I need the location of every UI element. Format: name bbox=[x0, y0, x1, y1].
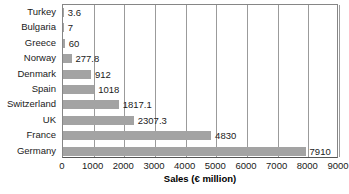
category-label: UK bbox=[43, 112, 56, 127]
bar[interactable] bbox=[63, 39, 65, 48]
x-tick-label: 3000 bbox=[143, 159, 164, 172]
bar-value-label: 4830 bbox=[215, 128, 236, 143]
bar-value-label: 912 bbox=[95, 67, 111, 82]
category-label: Norway bbox=[24, 50, 56, 65]
x-tick-label: 5000 bbox=[205, 159, 226, 172]
category-label: Spain bbox=[32, 81, 56, 96]
bar[interactable] bbox=[63, 70, 91, 79]
x-tick-label: 0 bbox=[59, 159, 64, 172]
bar-value-label: 1817.1 bbox=[123, 97, 152, 112]
category-label: Turkey bbox=[27, 4, 56, 19]
x-tick-label: 1000 bbox=[82, 159, 103, 172]
x-tick-label: 2000 bbox=[113, 159, 134, 172]
x-axis-ticks: 0100020003000400050006000700080009000 bbox=[62, 159, 338, 172]
bar-row: 3.6 bbox=[63, 5, 337, 20]
category-label: Germany bbox=[17, 143, 56, 158]
bar-value-label: 3.6 bbox=[68, 5, 81, 20]
bar[interactable] bbox=[63, 100, 119, 109]
bar[interactable] bbox=[63, 23, 64, 32]
category-label: Switzerland bbox=[7, 96, 56, 111]
bar-value-label: 60 bbox=[69, 36, 80, 51]
bar[interactable] bbox=[63, 116, 134, 125]
bar-row: 912 bbox=[63, 67, 337, 82]
bar[interactable] bbox=[63, 85, 94, 94]
category-label: Greece bbox=[25, 35, 56, 50]
category-label: France bbox=[26, 127, 56, 142]
gridline bbox=[339, 5, 340, 157]
bar-row: 7 bbox=[63, 20, 337, 35]
bar-row: 7910 bbox=[63, 144, 337, 159]
x-tick-label: 8000 bbox=[297, 159, 318, 172]
bar-row: 60 bbox=[63, 36, 337, 51]
bar-value-label: 277.8 bbox=[76, 51, 100, 66]
bar-value-label: 2307.3 bbox=[138, 113, 167, 128]
category-label: Denmark bbox=[17, 66, 56, 81]
x-tick-label: 6000 bbox=[235, 159, 256, 172]
category-label: Bulgaria bbox=[21, 19, 56, 34]
bar[interactable] bbox=[63, 54, 72, 63]
bar-row: 277.8 bbox=[63, 51, 337, 66]
bar[interactable] bbox=[63, 8, 64, 17]
bar[interactable] bbox=[63, 131, 211, 140]
bar-row: 1018 bbox=[63, 82, 337, 97]
bar-value-label: 1018 bbox=[98, 82, 119, 97]
bar-row: 2307.3 bbox=[63, 113, 337, 128]
x-tick-label: 7000 bbox=[266, 159, 287, 172]
x-tick-label: 9000 bbox=[327, 159, 348, 172]
category-axis: TurkeyBulgariaGreeceNorwayDenmarkSpainSw… bbox=[0, 4, 59, 158]
plot-area: 3.6760277.891210181817.12307.348307910 bbox=[62, 4, 338, 158]
x-tick-label: 4000 bbox=[174, 159, 195, 172]
bar-value-label: 7910 bbox=[310, 144, 331, 159]
bar[interactable] bbox=[63, 147, 306, 156]
x-axis-title: Sales (€ million) bbox=[62, 173, 338, 184]
bar-row: 1817.1 bbox=[63, 97, 337, 112]
bar-row: 4830 bbox=[63, 128, 337, 143]
bar-value-label: 7 bbox=[68, 20, 73, 35]
